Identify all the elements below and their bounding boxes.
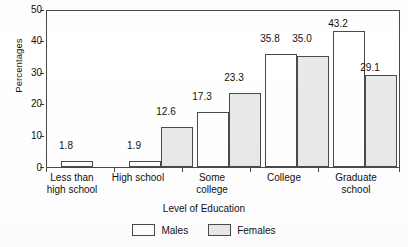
bar-males-high-school: [129, 161, 161, 167]
value-label-females-some-college: 23.3: [212, 73, 256, 83]
bar-males-some-college: [197, 112, 229, 167]
y-tick-mark-10: [40, 136, 44, 137]
y-tick-mark-50: [40, 10, 44, 11]
y-tick-label-20: 20: [20, 99, 42, 109]
value-label-males-graduate-school: 43.2: [316, 19, 360, 29]
x-category-line1: Graduate: [316, 172, 396, 184]
chart-legend: Males Females: [0, 224, 408, 236]
x-category-line1: College: [248, 172, 320, 184]
bar-females-graduate-school: [365, 75, 397, 167]
value-label-males-less-than-high-school: 1.8: [44, 141, 88, 151]
x-category-line1: High school: [96, 172, 180, 184]
x-category-line2: high school: [36, 184, 108, 196]
legend-swatch-males-icon: [132, 224, 155, 236]
x-category-line2: school: [316, 184, 396, 196]
x-category-label-some-college: Some college: [176, 172, 248, 195]
bars-layer: [47, 11, 399, 167]
bar-males-less-than-high-school: [61, 161, 93, 167]
legend-label-males: Males: [161, 225, 188, 236]
value-label-males-high-school: 1.9: [112, 141, 156, 151]
bar-females-high-school: [161, 127, 193, 167]
value-label-females-high-school: 12.6: [144, 107, 188, 117]
value-label-females-graduate-school: 29.1: [348, 63, 392, 73]
x-tick-mark-5: [399, 168, 400, 172]
y-tick-mark-40: [40, 41, 44, 42]
plot-area: [46, 10, 400, 168]
y-tick-mark-0: [40, 167, 44, 168]
bar-chart: Percentages 50 40 30 20 10 0: [0, 0, 408, 247]
x-axis-title: Level of Education: [0, 203, 408, 214]
value-label-males-some-college: 17.3: [180, 92, 224, 102]
bar-males-college: [265, 54, 297, 167]
legend-item-females: Females: [208, 224, 275, 236]
bar-males-graduate-school: [333, 31, 365, 167]
legend-swatch-females-icon: [208, 224, 231, 236]
y-tick-label-50: 50: [20, 5, 42, 15]
legend-label-females: Females: [237, 225, 275, 236]
y-tick-mark-20: [40, 104, 44, 105]
y-tick-mark-30: [40, 73, 44, 74]
y-tick-label-40: 40: [20, 36, 42, 46]
x-category-line1: Some: [176, 172, 248, 184]
y-tick-label-30: 30: [20, 68, 42, 78]
bar-females-college: [297, 56, 329, 167]
x-category-line2: college: [176, 184, 248, 196]
x-category-label-college: College: [248, 172, 320, 184]
x-category-label-high-school: High school: [96, 172, 180, 184]
x-category-label-graduate-school: Graduate school: [316, 172, 396, 195]
y-tick-label-10: 10: [20, 131, 42, 141]
value-label-females-college: 35.0: [280, 34, 324, 44]
legend-item-males: Males: [132, 224, 188, 236]
bar-females-some-college: [229, 93, 261, 167]
